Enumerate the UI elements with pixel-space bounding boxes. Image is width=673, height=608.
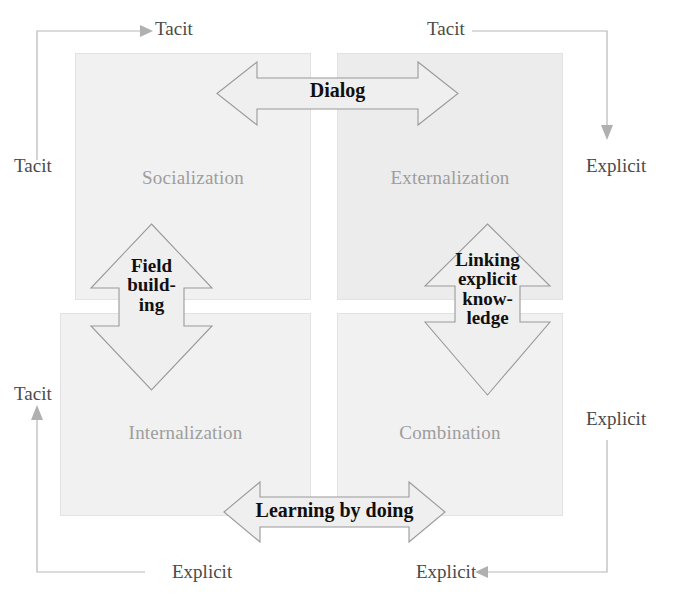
axis-label-top-left: Tacit xyxy=(155,18,193,40)
axis-label-bottom-left: Explicit xyxy=(172,561,232,583)
axis-label-top-right: Tacit xyxy=(427,18,465,40)
arrow-dialog[interactable] xyxy=(215,56,460,131)
quadrant-label-externalization: Externalization xyxy=(338,167,562,189)
flow-arrowhead-top-left xyxy=(140,25,153,37)
seci-diagram: Tacit Tacit Tacit Tacit Explicit Explici… xyxy=(0,0,673,608)
flow-arrowhead-top-right xyxy=(601,125,613,140)
quadrant-label-socialization: Socialization xyxy=(76,167,310,189)
axis-label-right-top: Explicit xyxy=(586,155,646,177)
quadrant-label-combination: Combination xyxy=(338,422,562,444)
axis-label-right-bottom: Explicit xyxy=(586,408,646,430)
flow-arrowhead-bottom-right xyxy=(475,566,488,578)
quadrant-label-internalization: Internalization xyxy=(61,422,310,444)
axis-label-bottom-right: Explicit xyxy=(416,561,476,583)
arrow-linking-explicit-knowledge[interactable] xyxy=(422,222,553,397)
arrow-learning-by-doing[interactable] xyxy=(222,478,447,546)
axis-label-left-bottom: Tacit xyxy=(14,383,52,405)
flow-arrowhead-bottom-left xyxy=(31,405,43,420)
axis-label-left-top: Tacit xyxy=(14,155,52,177)
arrow-field-building[interactable] xyxy=(88,222,215,392)
